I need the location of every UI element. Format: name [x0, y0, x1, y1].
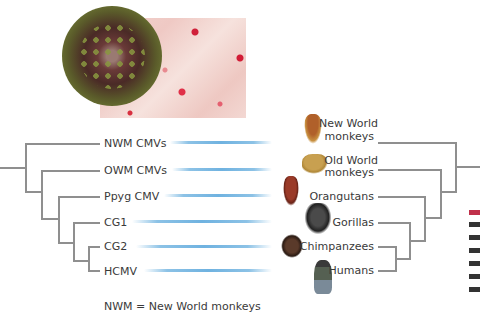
virus-label-owm: OWM CMVs [104, 164, 167, 177]
clipped-caption-fragment [469, 287, 480, 292]
association-bar [132, 220, 272, 223]
tree-node [424, 196, 426, 242]
association-bar [144, 269, 272, 272]
tree-branch [424, 217, 441, 219]
tree-branch [73, 260, 89, 262]
virus-label-ppyg: Ppyg CMV [104, 190, 159, 203]
gorilla-icon [304, 203, 332, 235]
tree-branch [41, 170, 100, 172]
tree-branch [440, 191, 456, 193]
host-label-gorillas: Gorillas [333, 216, 374, 229]
clipped-caption-fragment [469, 248, 480, 253]
tree-branch [88, 246, 100, 248]
association-bar [164, 194, 272, 197]
tree-root-branch [455, 166, 480, 168]
virus-label-nwm: NWM CMVs [104, 137, 167, 150]
virus-label-cg1: CG1 [104, 216, 127, 229]
tree-branch [88, 270, 100, 272]
abbreviation-footnote: NWM = New World monkeys [104, 300, 261, 313]
tree-root-branch [0, 167, 26, 169]
clipped-caption-fragment [469, 210, 480, 215]
tree-branch [41, 218, 59, 220]
host-label-chimpanzees: Chimpanzees [300, 240, 374, 253]
clipped-caption-fragment [469, 274, 480, 279]
clipped-caption-fragment [469, 222, 480, 227]
host-label-nwm-line1: New World [319, 117, 378, 130]
clipped-caption-fragment [469, 261, 480, 266]
tree-branch [25, 191, 42, 193]
host-label-nwm-line2: monkeys [325, 130, 374, 143]
tree-node [25, 143, 27, 193]
tree-branch [25, 143, 100, 145]
tree-branch [409, 240, 425, 242]
virus-surface-texture [66, 10, 158, 102]
tree-node [73, 222, 75, 262]
host-label-humans: Humans [329, 264, 374, 277]
tree-branch [378, 196, 425, 198]
orangutan-icon [283, 176, 299, 206]
virus-label-hcmv: HCMV [104, 265, 137, 278]
tree-branch [378, 222, 410, 224]
clipped-caption-fragment [469, 235, 480, 240]
tree-branch [378, 270, 396, 272]
host-label-orangutans: Orangutans [309, 190, 374, 203]
association-bar [172, 168, 272, 171]
tree-branch [378, 246, 396, 248]
tree-branch [378, 169, 441, 171]
tree-branch [73, 222, 100, 224]
association-bar [136, 245, 272, 248]
tree-node [88, 246, 90, 272]
tree-node [41, 170, 43, 220]
association-bar [170, 141, 272, 144]
host-label-owm-line2: monkeys [325, 166, 374, 179]
virus-label-cg2: CG2 [104, 240, 127, 253]
tree-branch [58, 196, 100, 198]
tree-node [440, 169, 442, 219]
tree-branch [378, 142, 456, 144]
tree-node [58, 196, 60, 244]
